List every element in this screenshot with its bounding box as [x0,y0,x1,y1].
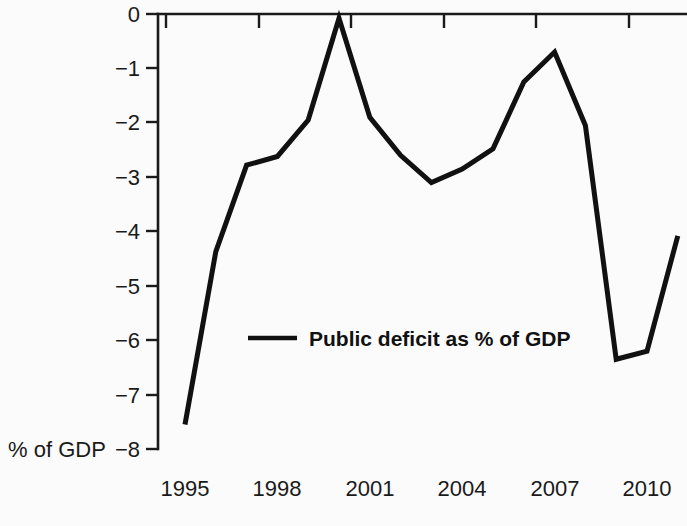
y-tick-label-0: 0 [128,2,140,27]
line-chart: 0 −1 −2 −3 −4 −5 −6 −7 −8 % of GDP 1995 … [0,0,687,526]
y-tick-label-minus6: −6 [115,328,140,353]
legend-label-public-deficit: Public deficit as % of GDP [309,327,570,350]
y-axis-unit-label: % of GDP [8,437,106,462]
y-tick-label-minus7: −7 [115,383,140,408]
y-tick-label-minus1: −1 [115,56,140,81]
x-tick-label-1998: 1998 [253,476,302,501]
chart-figure: 0 −1 −2 −3 −4 −5 −6 −7 −8 % of GDP 1995 … [0,0,687,526]
y-tick-label-minus8: −8 [115,437,140,462]
x-tick-label-1995: 1995 [161,476,210,501]
y-tick-label-minus2: −2 [115,110,140,135]
y-tick-label-minus4: −4 [115,219,140,244]
x-tick-label-2001: 2001 [346,476,395,501]
x-tick-label-2007: 2007 [531,476,580,501]
x-tick-label-2004: 2004 [438,476,487,501]
x-tick-label-2010: 2010 [623,476,672,501]
y-tick-label-minus3: −3 [115,165,140,190]
y-axis-tick-labels: 0 −1 −2 −3 −4 −5 −6 −7 −8 [115,2,140,462]
y-tick-label-minus5: −5 [115,274,140,299]
